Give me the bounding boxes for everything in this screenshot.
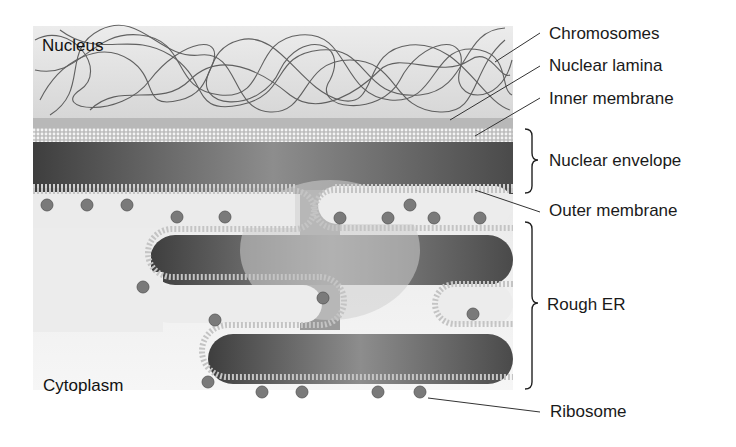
cytoplasm-label: Cytoplasm [43, 377, 123, 394]
nuclear-envelope-brace [525, 129, 538, 193]
rough-er-brace [525, 222, 538, 389]
label-rough-er: Rough ER [547, 296, 625, 313]
label-nuclear-lamina: Nuclear lamina [549, 57, 662, 74]
braces [525, 129, 538, 389]
nucleus-label: Nucleus [42, 37, 103, 54]
label-ribosome: Ribosome [550, 403, 627, 420]
nuclear-lamina-band [33, 118, 513, 128]
label-nuclear-envelope: Nuclear envelope [549, 152, 681, 169]
label-outer-membrane: Outer membrane [549, 202, 678, 219]
label-chromosomes: Chromosomes [549, 25, 660, 42]
label-inner-membrane: Inner membrane [549, 90, 674, 107]
